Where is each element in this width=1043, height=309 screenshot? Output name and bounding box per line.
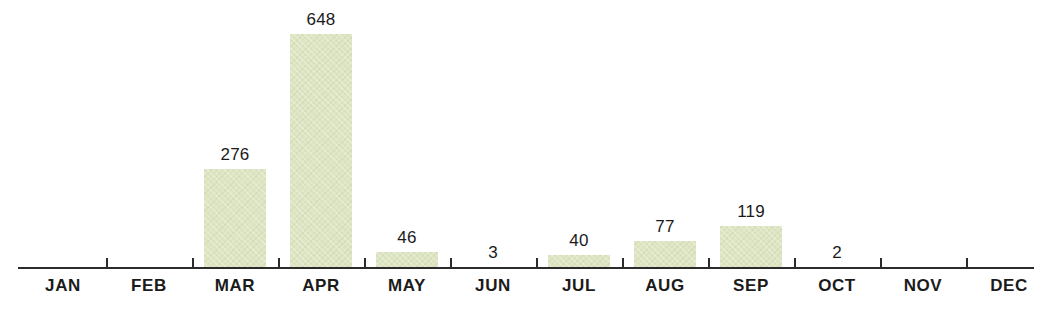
bar-apr bbox=[290, 34, 352, 269]
x-axis-tick bbox=[364, 258, 366, 268]
bar-column: 3 bbox=[462, 244, 524, 269]
bar-column: 648 bbox=[290, 11, 352, 269]
bar-slot-aug: 77 bbox=[622, 0, 708, 269]
plot-area: 27664846340771192 bbox=[0, 0, 1043, 269]
bar-value-label-apr: 648 bbox=[307, 11, 336, 28]
bar-value-label-jun: 3 bbox=[488, 244, 498, 261]
bar-value-label-jul: 40 bbox=[569, 232, 588, 249]
bar-value-label-may: 46 bbox=[397, 229, 416, 246]
bar-slot-apr: 648 bbox=[278, 0, 364, 269]
bar-column: 77 bbox=[634, 218, 696, 269]
x-axis-tick bbox=[708, 258, 710, 268]
x-axis-label-aug: AUG bbox=[622, 273, 708, 299]
x-axis-tick bbox=[536, 258, 538, 268]
bar-slot-nov bbox=[880, 0, 966, 269]
x-axis-tick bbox=[278, 258, 280, 268]
bar-column: 40 bbox=[548, 232, 610, 270]
bar-sep bbox=[720, 226, 782, 269]
bar-slot-may: 46 bbox=[364, 0, 450, 269]
bar-slot-dec bbox=[966, 0, 1043, 269]
bar-value-label-aug: 77 bbox=[655, 218, 674, 235]
bar-value-label-oct: 2 bbox=[832, 244, 842, 261]
x-axis-label-nov: NOV bbox=[880, 273, 966, 299]
x-axis-tick bbox=[794, 258, 796, 268]
bar-slot-jun: 3 bbox=[450, 0, 536, 269]
x-axis-tick bbox=[450, 258, 452, 268]
x-axis-label-may: MAY bbox=[364, 273, 450, 299]
x-axis-label-mar: MAR bbox=[192, 273, 278, 299]
bar-slot-sep: 119 bbox=[708, 0, 794, 269]
bar-slot-jan bbox=[20, 0, 106, 269]
x-axis-label-oct: OCT bbox=[794, 273, 880, 299]
bar-slot-jul: 40 bbox=[536, 0, 622, 269]
x-axis-tick bbox=[966, 258, 968, 268]
x-axis-tick bbox=[192, 258, 194, 268]
bar-value-label-sep: 119 bbox=[737, 203, 765, 220]
x-axis-label-jan: JAN bbox=[20, 273, 106, 299]
x-axis-label-feb: FEB bbox=[106, 273, 192, 299]
x-axis-label-sep: SEP bbox=[708, 273, 794, 299]
x-axis-tick bbox=[622, 258, 624, 268]
bar-column: 119 bbox=[720, 203, 782, 269]
bar-slot-mar: 276 bbox=[192, 0, 278, 269]
x-axis-tick bbox=[106, 258, 108, 268]
bar-mar bbox=[204, 169, 266, 269]
bar-column: 2 bbox=[806, 244, 868, 269]
bar-value-label-mar: 276 bbox=[221, 146, 250, 163]
bar-chart: 27664846340771192 JANFEBMARAPRMAYJUNJULA… bbox=[0, 0, 1043, 309]
x-axis-label-dec: DEC bbox=[966, 273, 1043, 299]
x-axis-label-jun: JUN bbox=[450, 273, 536, 299]
x-axis-label-jul: JUL bbox=[536, 273, 622, 299]
bar-column: 276 bbox=[204, 146, 266, 269]
x-axis-tick bbox=[880, 258, 882, 268]
bar-column: 46 bbox=[376, 229, 438, 269]
bar-slot-oct: 2 bbox=[794, 0, 880, 269]
bar-aug bbox=[634, 241, 696, 269]
bar-slot-feb bbox=[106, 0, 192, 269]
x-axis-labels: JANFEBMARAPRMAYJUNJULAUGSEPOCTNOVDEC bbox=[0, 273, 1043, 309]
x-axis-label-apr: APR bbox=[278, 273, 364, 299]
